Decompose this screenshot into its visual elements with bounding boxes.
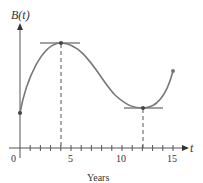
x-axis-arrow-icon bbox=[182, 145, 189, 151]
y-axis-label: B(t) bbox=[11, 8, 30, 22]
point-start bbox=[18, 111, 22, 115]
x-axis-label: t bbox=[190, 141, 194, 155]
tick-label-0: 0 bbox=[11, 153, 16, 164]
curve-B bbox=[20, 43, 173, 113]
point-max bbox=[59, 41, 63, 45]
x-caption: Years bbox=[87, 172, 109, 183]
tick-label-15: 15 bbox=[167, 153, 177, 164]
tick-label-10: 10 bbox=[116, 153, 126, 164]
point-min bbox=[141, 106, 145, 110]
y-axis-arrow-icon bbox=[17, 23, 23, 30]
graph: B(t) t 0 5 10 15 Years bbox=[0, 0, 203, 183]
point-end bbox=[171, 69, 175, 73]
tick-label-5: 5 bbox=[68, 153, 73, 164]
